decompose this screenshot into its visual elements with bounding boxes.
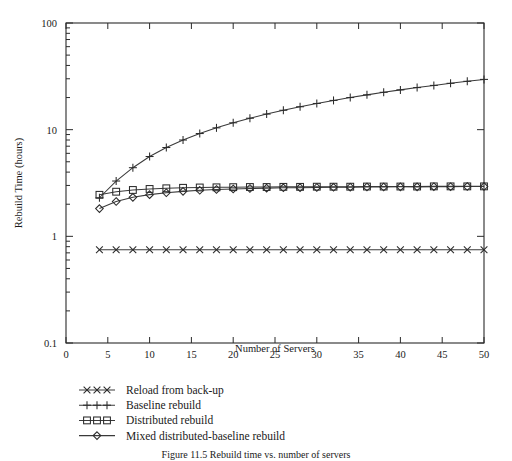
y-tick-label: 0.1 bbox=[44, 338, 57, 349]
legend-label: Baseline rebuild bbox=[126, 399, 201, 411]
y-tick-label: 10 bbox=[47, 125, 58, 136]
y-axis-title: Rebuild Time (hours) bbox=[13, 137, 25, 228]
series-plus bbox=[95, 75, 488, 201]
x-tick-label: 0 bbox=[63, 349, 68, 360]
legend-item-square: Distributed rebuild bbox=[79, 414, 213, 426]
x-axis-title: Number of Servers bbox=[235, 343, 315, 354]
legend-item-diamond: Mixed distributed-baseline rebuild bbox=[79, 430, 285, 442]
x-tick-label: 50 bbox=[479, 349, 490, 360]
x-tick-label: 45 bbox=[437, 349, 448, 360]
x-tick-label: 10 bbox=[144, 349, 155, 360]
y-tick-label: 100 bbox=[41, 18, 57, 29]
legend-label: Reload from back-up bbox=[126, 384, 224, 397]
series-square bbox=[96, 183, 487, 198]
plot-frame bbox=[66, 23, 484, 343]
x-axis-ticks: 05101520253035404550 bbox=[63, 23, 489, 360]
y-tick-label: 1 bbox=[52, 231, 57, 242]
x-tick-label: 15 bbox=[186, 349, 197, 360]
rebuild-time-chart: 05101520253035404550 0.1110100 Number of… bbox=[0, 0, 512, 461]
figure-caption: Figure 11.5 Rebuild time vs. number of s… bbox=[162, 449, 351, 460]
x-tick-label: 40 bbox=[395, 349, 406, 360]
figure-container: 05101520253035404550 0.1110100 Number of… bbox=[0, 0, 512, 461]
x-tick-label: 35 bbox=[353, 349, 364, 360]
legend-item-plus: Baseline rebuild bbox=[79, 399, 201, 411]
x-tick-label: 5 bbox=[105, 349, 110, 360]
legend-label: Mixed distributed-baseline rebuild bbox=[126, 430, 285, 442]
legend-item-x: Reload from back-up bbox=[79, 384, 224, 397]
chart-legend: Reload from back-upBaseline rebuildDistr… bbox=[79, 384, 285, 442]
legend-label: Distributed rebuild bbox=[126, 414, 213, 426]
series-x bbox=[96, 246, 487, 253]
data-series-layer bbox=[95, 75, 488, 253]
